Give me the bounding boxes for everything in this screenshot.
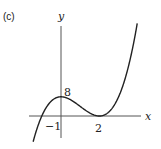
x-axis-label: x	[145, 110, 152, 123]
x-tick-neg1: −1	[45, 120, 61, 133]
y-axis-label: y	[57, 10, 65, 23]
x-tick-2: 2	[95, 122, 102, 135]
cubic-graph: (c) y x 8 −1 2	[0, 0, 161, 149]
panel-label: (c)	[3, 11, 15, 22]
